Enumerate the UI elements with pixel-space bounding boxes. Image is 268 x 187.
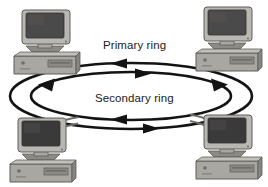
ring-labels: Primary ring Secondary ring	[0, 0, 268, 187]
primary-ring-label: Primary ring	[103, 39, 166, 51]
dual-ring-network-figure: Primary ring Secondary ring	[0, 0, 268, 187]
secondary-ring-label: Secondary ring	[95, 92, 174, 104]
